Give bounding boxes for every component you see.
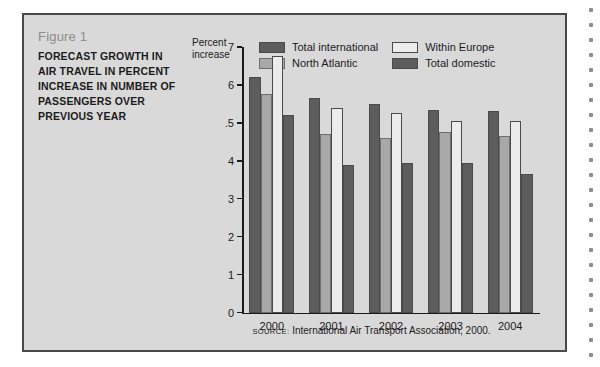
bar [343,165,354,313]
bar [439,132,450,312]
x-axis-line [242,313,540,315]
source-word: SOURCE: [252,327,289,336]
perforation-dot [589,293,593,297]
bar [380,138,391,312]
perforation-dot [589,278,593,282]
bar [320,134,331,312]
perforation-dot [589,113,593,117]
perforated-page-edge [588,0,597,367]
plot-area: 01234.56720002001200220032004 [242,47,540,314]
source-text: International Air Transport Association,… [292,325,490,336]
perforation-dot [589,38,593,42]
bar-group [421,48,481,313]
perforation-dot [589,218,593,222]
y-axis-title: Percent increase [192,37,244,61]
bar [499,136,510,312]
bar [521,174,532,312]
bar [249,77,260,312]
figure-number-label: Figure 1 [38,29,178,44]
bar [283,115,294,312]
bar [391,113,402,312]
perforation-dot [589,173,593,177]
y-axis-tick-label: 4 [228,155,234,167]
perforation-dot [589,23,593,27]
perforation-dot [589,323,593,327]
y-axis-tick-label: 2 [228,231,234,243]
y-axis-tick-label: 3 [228,193,234,205]
bar-group [480,48,540,313]
perforation-dot [589,188,593,192]
perforation-dot [589,233,593,237]
y-axis-tick-label: 0 [228,307,234,319]
perforation-dot [589,128,593,132]
bar-group [242,48,302,313]
bar [510,121,521,313]
perforation-dot [589,248,593,252]
bar [369,104,380,313]
perforation-dot [589,8,593,12]
bar [309,98,320,312]
chart-region: Percent increase Total internationalWith… [184,25,559,345]
perforation-dot [589,338,593,342]
perforation-dot [589,353,593,357]
perforation-dot [589,263,593,267]
bar [428,110,439,313]
y-axis-tick-label: .5 [225,117,234,129]
perforation-dot [589,53,593,57]
perforation-dot [589,308,593,312]
bar [331,108,342,313]
source-line: SOURCE: International Air Transport Asso… [184,325,559,336]
perforation-dot [589,203,593,207]
perforation-dot [589,98,593,102]
bar-group [361,48,421,313]
bar [488,111,499,312]
perforation-dot [589,68,593,72]
perforation-dot [589,83,593,87]
bar [402,163,413,313]
y-axis-tick-label: 7 [228,41,234,53]
bar [462,163,473,313]
figure-title: FORECAST GROWTH IN AIR TRAVEL IN PERCENT… [38,49,178,124]
perforation-dot [589,158,593,162]
bar [451,121,462,313]
bar [261,94,272,312]
perforation-dot [589,143,593,147]
bar-group [302,48,362,313]
bar [272,56,283,312]
y-axis-tick-label: 6 [228,79,234,91]
y-axis-tick-label: 1 [228,269,234,281]
figure-caption-panel: Figure 1 FORECAST GROWTH IN AIR TRAVEL I… [38,29,178,124]
figure-frame: Figure 1 FORECAST GROWTH IN AIR TRAVEL I… [22,13,567,352]
